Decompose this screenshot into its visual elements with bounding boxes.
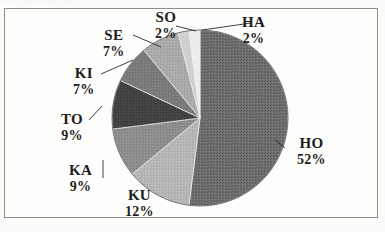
slice-label-so-name: SO: [155, 9, 176, 25]
slice-label-ka: KA 9%: [69, 163, 92, 195]
slice-label-se-name: SE: [104, 27, 123, 43]
slice-label-ku-name: KU: [128, 187, 151, 203]
leader-line-to: [89, 106, 102, 120]
slice-label-ho-percent: 52%: [297, 152, 326, 168]
slice-label-to-percent: 9%: [61, 128, 83, 144]
leader-line-so: [176, 26, 196, 31]
slice-label-se-percent: 7%: [103, 44, 125, 60]
slice-label-se: SE 7%: [103, 28, 125, 60]
pie-chart: [0, 0, 385, 232]
slice-label-ho: HO 52%: [297, 136, 326, 168]
slice-label-to-name: TO: [61, 111, 83, 127]
slice-label-ki-percent: 7%: [73, 82, 95, 98]
slice-label-ka-name: KA: [69, 162, 92, 178]
slice-label-ku: KU 12%: [125, 188, 154, 220]
slice-label-so-percent: 2%: [155, 26, 177, 42]
pie-slice-ho: [189, 30, 288, 206]
slice-label-ki: KI 7%: [73, 66, 95, 98]
pie-chart-svg: [0, 0, 385, 232]
slice-label-ha: HA 2%: [242, 15, 265, 47]
slice-label-ka-percent: 9%: [69, 179, 92, 195]
slice-label-ku-percent: 12%: [125, 204, 154, 220]
pie-slices: [112, 30, 288, 206]
slice-label-ha-percent: 2%: [242, 31, 265, 47]
slice-label-so: SO 2%: [155, 10, 177, 42]
slice-label-to: TO 9%: [61, 112, 83, 144]
slice-label-ho-name: HO: [299, 135, 323, 151]
slice-label-ki-name: KI: [75, 65, 93, 81]
slice-label-ha-name: HA: [242, 14, 265, 30]
